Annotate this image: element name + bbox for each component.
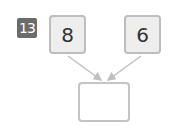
left-arrow	[68, 56, 101, 80]
answer-box[interactable]	[78, 82, 130, 122]
right-arrow	[108, 56, 141, 80]
